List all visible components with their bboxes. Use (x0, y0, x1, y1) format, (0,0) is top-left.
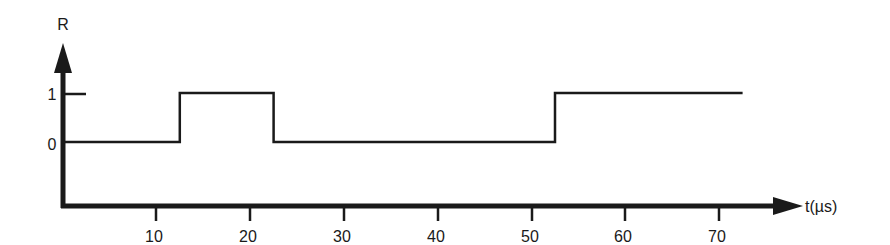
x-axis-arrow-icon (773, 197, 803, 215)
signal-trace-r (63, 93, 743, 142)
y-axis-arrow-icon (54, 43, 72, 73)
y-axis-label: R (57, 16, 69, 33)
x-tick-label-50: 50 (521, 228, 539, 245)
x-tick-label-70: 70 (708, 228, 726, 245)
x-tick-label-40: 40 (427, 228, 445, 245)
x-axis-label: t(µs) (805, 198, 837, 215)
x-tick-label-20: 20 (239, 228, 257, 245)
x-tick-label-10: 10 (145, 228, 163, 245)
x-tick-label-30: 30 (333, 228, 351, 245)
y-tick-label-0: 0 (48, 136, 57, 153)
y-tick-label-1: 1 (48, 86, 57, 103)
timing-diagram: R t(µs) 1 0 10 20 30 40 50 60 70 (0, 0, 890, 245)
x-tick-label-60: 60 (614, 228, 632, 245)
